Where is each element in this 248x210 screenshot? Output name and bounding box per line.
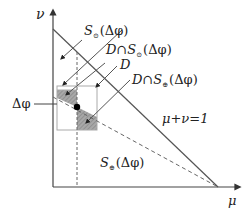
label-s-plus-region: S⊕(Δφ)	[100, 155, 144, 172]
label-d: D	[119, 57, 131, 72]
leader-s-circle-to-axis	[62, 40, 82, 58]
delta-phi-point	[74, 104, 80, 110]
leader-d	[97, 66, 117, 86]
label-d-cap-s-plus: D∩S⊕(Δφ)	[131, 72, 198, 89]
leader-d-cap-s-circle	[67, 63, 105, 94]
label-s-circle: S⊙(Δφ)	[84, 23, 128, 40]
diagram-canvas: ν μ S⊙(Δφ) D∩S⊙(Δφ) D D∩S⊕(Δφ) Δφ μ+ν=1 …	[0, 0, 248, 210]
x-axis-label: μ	[228, 193, 236, 208]
shaded-region-lower	[77, 107, 97, 130]
label-line-equation: μ+ν=1	[162, 111, 208, 126]
y-axis-label: ν	[36, 6, 45, 22]
label-delta-phi: Δφ	[12, 96, 31, 111]
label-d-cap-s-circle: D∩S⊙(Δφ)	[105, 42, 172, 59]
